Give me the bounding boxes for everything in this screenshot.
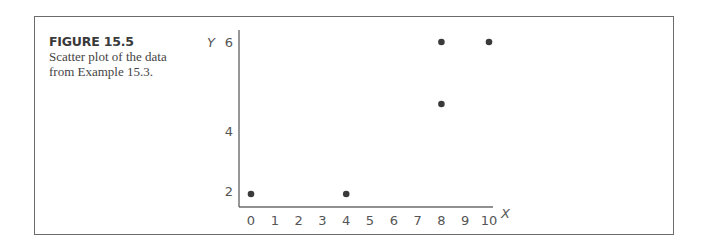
scatter-plot: 012345678910 246 X Y xyxy=(0,0,709,252)
y-tick-labels: 246 xyxy=(225,35,233,199)
data-point xyxy=(438,101,445,108)
data-point xyxy=(343,191,350,198)
x-tick-label: 0 xyxy=(247,213,255,228)
data-points xyxy=(248,39,493,198)
x-tick-label: 9 xyxy=(461,213,469,228)
x-tick-label: 6 xyxy=(390,213,398,228)
x-tick-label: 8 xyxy=(437,213,445,228)
data-point xyxy=(438,39,445,46)
x-tick-label: 10 xyxy=(481,213,498,228)
axes xyxy=(239,30,493,207)
y-tick-label: 4 xyxy=(225,124,233,139)
y-tick-label: 6 xyxy=(225,35,233,50)
data-point xyxy=(248,191,255,198)
x-axis-label: X xyxy=(500,206,511,221)
data-point xyxy=(486,39,493,46)
x-tick-label: 3 xyxy=(318,213,326,228)
y-axis-label: Y xyxy=(207,35,216,50)
x-tick-label: 4 xyxy=(342,213,350,228)
x-tick-label: 1 xyxy=(271,213,279,228)
x-tick-label: 2 xyxy=(294,213,302,228)
y-tick-label: 2 xyxy=(225,184,233,199)
x-tick-label: 5 xyxy=(366,213,374,228)
x-tick-label: 7 xyxy=(413,213,421,228)
x-tick-labels: 012345678910 xyxy=(247,213,497,228)
